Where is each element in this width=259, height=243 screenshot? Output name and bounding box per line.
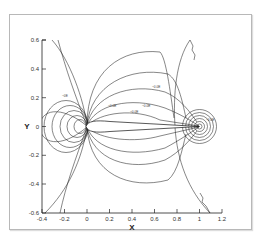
svg-text:-0.2: -0.2 <box>59 216 70 222</box>
svg-text:~0.0E: ~0.0E <box>206 118 214 122</box>
svg-text:1: 1 <box>198 216 202 222</box>
svg-text:~0.0E: ~0.0E <box>152 85 160 89</box>
y-ticks <box>42 40 46 213</box>
y-tick-labels: 0.6 0.4 0.2 0 -0.2 -0.4 -0.6 <box>29 37 40 216</box>
svg-text:0: 0 <box>85 216 89 222</box>
x-axis-label: X <box>129 223 135 232</box>
svg-text:0.2: 0.2 <box>105 216 114 222</box>
x-ticks <box>42 209 222 213</box>
contour-plot: ~0.0E ~0.0E ~0.0E ~0.0E ~0E ~0.0E -0.4 <box>0 0 259 243</box>
svg-text:0.2: 0.2 <box>31 95 40 101</box>
svg-text:-0.4: -0.4 <box>29 181 40 187</box>
svg-text:0.4: 0.4 <box>31 66 40 72</box>
svg-text:-0.4: -0.4 <box>37 216 48 222</box>
x-tick-labels: -0.4 -0.2 0 0.2 0.4 0.6 0.8 1 1.2 <box>37 216 227 222</box>
svg-text:1.2: 1.2 <box>218 216 227 222</box>
svg-text:~0.0E: ~0.0E <box>130 110 138 114</box>
svg-text:-0.6: -0.6 <box>29 210 40 216</box>
svg-text:0.6: 0.6 <box>31 37 40 43</box>
svg-text:~0.0E: ~0.0E <box>108 104 116 108</box>
svg-text:0.8: 0.8 <box>173 216 182 222</box>
svg-text:0.6: 0.6 <box>150 216 159 222</box>
svg-text:0.4: 0.4 <box>128 216 137 222</box>
svg-text:0: 0 <box>36 124 40 130</box>
svg-text:~0.0E: ~0.0E <box>142 104 150 108</box>
svg-text:~0E: ~0E <box>62 94 68 98</box>
airfoil-shape <box>86 121 200 132</box>
svg-text:-0.2: -0.2 <box>29 152 40 158</box>
y-axis-label: Y <box>24 122 30 131</box>
